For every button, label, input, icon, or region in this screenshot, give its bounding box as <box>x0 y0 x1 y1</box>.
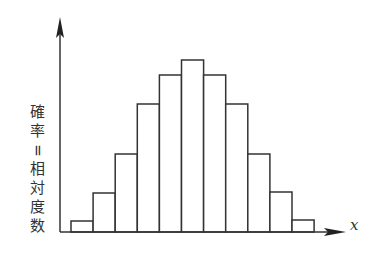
y-label-char: 率 <box>28 122 46 141</box>
y-label-char: 確 <box>28 103 46 122</box>
histogram-bar <box>71 221 93 232</box>
y-label-char: 数 <box>28 217 46 236</box>
x-axis-label: x <box>350 216 358 234</box>
histogram-bar <box>270 192 292 232</box>
histogram-chart <box>0 0 383 259</box>
y-label-char: 度 <box>28 198 46 217</box>
histogram-bar <box>159 75 181 232</box>
histogram-bar <box>115 154 137 232</box>
histogram-bar <box>137 104 159 232</box>
histogram-bar <box>93 193 115 232</box>
histogram-bar <box>204 75 226 232</box>
histogram-bar <box>248 154 270 232</box>
histogram-bar <box>182 60 204 232</box>
histogram-bar <box>226 104 248 232</box>
y-axis-label: 確 率 = 相 対 度 数 <box>28 103 46 236</box>
y-label-char: 相 <box>28 160 46 179</box>
y-label-char: 対 <box>28 179 46 198</box>
y-label-char: = <box>28 142 47 160</box>
histogram-bar <box>292 220 314 232</box>
histogram-bars <box>71 60 314 232</box>
